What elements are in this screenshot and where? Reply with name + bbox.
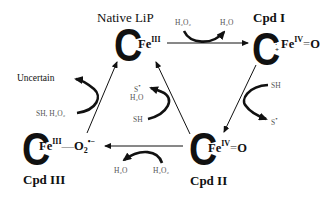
- uncertain-label: Uncertain: [17, 73, 54, 83]
- h2o-label-mid: H₂O: [130, 93, 143, 102]
- cpd2-label: Cpd II: [190, 173, 227, 189]
- native-iron: FeIII: [138, 37, 161, 52]
- cpd1-radical-cation: :+: [275, 40, 279, 54]
- curved-arrow-h2o2-h2o: [184, 31, 224, 42]
- h2o2-label-bottom: H₂O₂: [153, 166, 169, 175]
- curved-arrow-uncertain: [76, 79, 98, 113]
- h2o2-label-top: H₂O₂: [175, 18, 191, 27]
- sh-label-right: SH: [271, 81, 281, 90]
- arrow-cpd3-to-native: [87, 62, 117, 133]
- sh-label-mid: SH: [133, 115, 143, 124]
- curved-arrow-sh-s2: [148, 88, 169, 119]
- cpd1-iron-oxo: FeIV=O: [281, 37, 320, 52]
- sh-h2o2-label: SH, H₂O₂: [36, 109, 65, 118]
- cpd3-label: Cpd III: [23, 172, 65, 188]
- arrow-cpd1-to-cpd2: [224, 65, 256, 132]
- curved-arrow-sh-s1: [244, 85, 268, 119]
- s-radical-label-mid: S•: [134, 82, 141, 94]
- arrow-cpd2-to-native: [156, 62, 190, 134]
- s-radical-label-right: S•: [271, 115, 278, 127]
- curved-arrow-h2o2-h2o-2: [124, 152, 162, 163]
- cpd2-iron-oxo: FeIV=O: [208, 141, 247, 156]
- h2o-label-top: H₂O: [220, 18, 233, 27]
- cpd3-iron-superoxo: FeIII—O2•−: [39, 139, 95, 154]
- h2o-label-bottom: H₂O: [114, 166, 127, 175]
